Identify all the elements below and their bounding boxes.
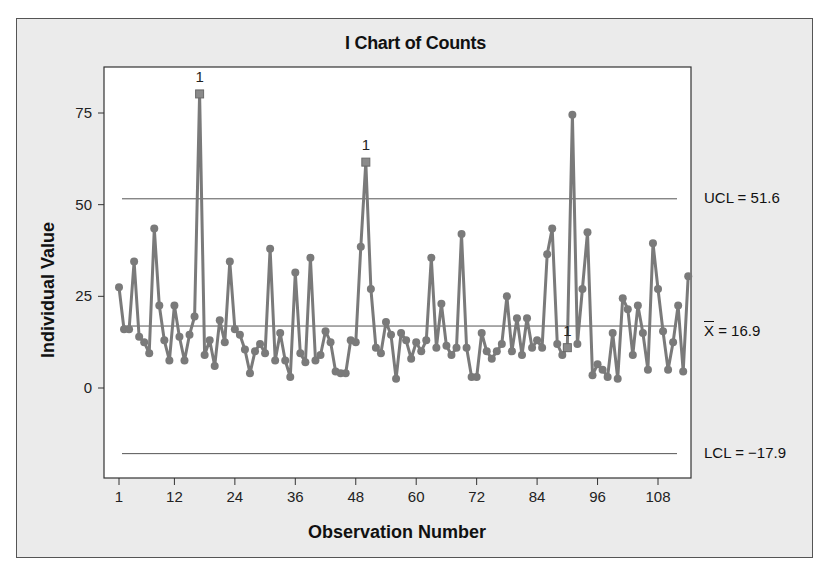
data-point xyxy=(251,347,259,355)
data-point xyxy=(669,338,677,346)
data-point xyxy=(548,225,556,233)
data-point xyxy=(145,349,153,357)
x-tick-label: 12 xyxy=(166,488,183,505)
data-point xyxy=(357,243,365,251)
data-point xyxy=(412,338,420,346)
data-point xyxy=(533,336,541,344)
y-tick-label: 0 xyxy=(84,379,92,396)
data-point xyxy=(513,314,521,322)
out-of-control-marker xyxy=(196,90,204,98)
data-point xyxy=(246,369,254,377)
data-point xyxy=(573,340,581,348)
ucl-label: UCL = 51.6 xyxy=(704,189,780,206)
data-point xyxy=(342,369,350,377)
data-point xyxy=(276,329,284,337)
data-point xyxy=(599,366,607,374)
data-point xyxy=(352,338,360,346)
data-point xyxy=(417,347,425,355)
data-point xyxy=(211,362,219,370)
y-tick-label: 50 xyxy=(75,196,92,213)
data-point xyxy=(508,347,516,355)
x-tick-label: 48 xyxy=(347,488,364,505)
data-point xyxy=(473,373,481,381)
data-point xyxy=(241,346,249,354)
data-point xyxy=(266,245,274,253)
data-point xyxy=(216,316,224,324)
data-point xyxy=(558,351,566,359)
data-point xyxy=(201,351,209,359)
data-point xyxy=(649,239,657,247)
x-tick-label: 36 xyxy=(287,488,304,505)
data-point xyxy=(553,340,561,348)
data-point xyxy=(236,331,244,339)
data-point xyxy=(518,351,526,359)
data-point xyxy=(306,254,314,262)
plot-area: 025507511224364860728496108111 xyxy=(0,0,831,577)
data-point xyxy=(604,373,612,381)
data-point xyxy=(679,368,687,376)
x-tick-label: 1 xyxy=(115,488,123,505)
data-point xyxy=(498,340,506,348)
data-point xyxy=(206,336,214,344)
data-point xyxy=(286,373,294,381)
y-tick-label: 25 xyxy=(75,287,92,304)
data-point xyxy=(155,302,163,310)
data-point xyxy=(674,302,682,310)
data-point xyxy=(614,375,622,383)
data-point xyxy=(483,347,491,355)
center-line-label: X = 16.9 xyxy=(704,322,760,339)
data-point xyxy=(175,333,183,341)
lcl-label: LCL = −17.9 xyxy=(704,444,786,461)
data-point xyxy=(478,329,486,337)
data-point xyxy=(291,269,299,277)
data-point xyxy=(367,285,375,293)
data-point xyxy=(392,375,400,383)
y-axis-label: Individual Value xyxy=(38,222,59,358)
data-point xyxy=(644,366,652,374)
data-point xyxy=(528,344,536,352)
data-point xyxy=(493,347,501,355)
plot-frame xyxy=(104,67,691,478)
data-point xyxy=(503,292,511,300)
data-point xyxy=(664,366,672,374)
data-point xyxy=(382,318,390,326)
x-tick-label: 108 xyxy=(645,488,670,505)
data-point xyxy=(327,338,335,346)
xbar-symbol: X xyxy=(704,322,714,339)
data-point xyxy=(609,329,617,337)
data-point xyxy=(684,272,692,280)
data-point xyxy=(654,285,662,293)
data-point xyxy=(407,355,415,363)
data-point xyxy=(316,351,324,359)
data-point xyxy=(453,344,461,352)
data-point xyxy=(221,338,229,346)
x-tick-label: 24 xyxy=(227,488,244,505)
data-point xyxy=(583,228,591,236)
data-point xyxy=(437,300,445,308)
data-point xyxy=(301,358,309,366)
data-point xyxy=(256,340,264,348)
data-point xyxy=(578,285,586,293)
data-point xyxy=(165,357,173,365)
data-point xyxy=(447,351,455,359)
x-tick-label: 72 xyxy=(468,488,485,505)
data-point xyxy=(589,371,597,379)
data-point xyxy=(160,336,168,344)
data-point xyxy=(397,329,405,337)
test-failure-label: 1 xyxy=(563,322,571,339)
data-point xyxy=(296,349,304,357)
data-point xyxy=(624,305,632,313)
test-failure-label: 1 xyxy=(362,136,370,153)
data-point xyxy=(463,344,471,352)
data-point xyxy=(226,258,234,266)
data-point xyxy=(261,349,269,357)
data-point xyxy=(115,283,123,291)
data-point xyxy=(619,294,627,302)
data-point xyxy=(281,357,289,365)
data-point xyxy=(639,329,647,337)
x-axis-label: Observation Number xyxy=(308,522,486,543)
data-point xyxy=(543,250,551,258)
data-point xyxy=(271,357,279,365)
data-point xyxy=(523,314,531,322)
data-point xyxy=(377,349,385,357)
